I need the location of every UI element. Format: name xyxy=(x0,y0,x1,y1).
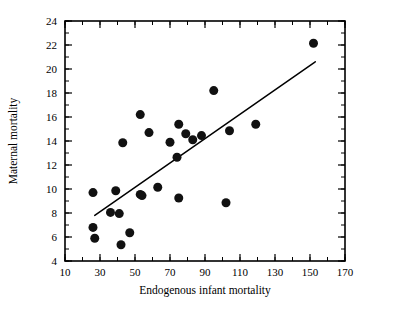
data-point xyxy=(174,120,183,129)
scatter-plot-figure: 1030507090110130150170 46810121416182022… xyxy=(0,0,400,311)
x-tick-label: 70 xyxy=(165,266,177,278)
data-point xyxy=(222,198,231,207)
data-point xyxy=(145,128,154,137)
x-tick-label: 150 xyxy=(302,266,319,278)
x-tick-label: 50 xyxy=(130,266,142,278)
x-tick-label: 110 xyxy=(232,266,249,278)
y-tick-label: 10 xyxy=(46,183,58,195)
figure-background xyxy=(0,0,400,311)
data-point xyxy=(90,234,99,243)
data-point xyxy=(136,110,145,119)
data-point xyxy=(181,129,190,138)
y-tick-label: 12 xyxy=(46,159,57,171)
x-axis-tick-labels: 1030507090110130150170 xyxy=(60,266,354,278)
x-tick-label: 170 xyxy=(337,266,354,278)
y-tick-label: 20 xyxy=(46,63,58,75)
data-point xyxy=(111,186,120,195)
y-tick-label: 14 xyxy=(46,135,58,147)
data-point xyxy=(138,191,147,200)
plot-canvas: 1030507090110130150170 46810121416182022… xyxy=(0,0,400,311)
y-tick-label: 24 xyxy=(46,15,58,27)
data-point xyxy=(125,228,134,237)
y-axis-label: Maternal mortality xyxy=(7,97,20,184)
y-tick-label: 18 xyxy=(46,87,58,99)
y-tick-label: 16 xyxy=(46,111,58,123)
data-point xyxy=(188,135,197,144)
data-point xyxy=(89,223,98,232)
x-tick-label: 90 xyxy=(200,266,212,278)
data-point xyxy=(115,209,124,218)
y-tick-label: 4 xyxy=(52,255,58,267)
data-point xyxy=(209,86,218,95)
data-point xyxy=(117,240,126,249)
data-point xyxy=(251,120,260,129)
data-point xyxy=(166,138,175,147)
data-point xyxy=(173,153,182,162)
data-point xyxy=(309,39,318,48)
data-point xyxy=(89,188,98,197)
data-point xyxy=(197,131,206,140)
x-tick-label: 30 xyxy=(95,266,107,278)
data-point xyxy=(118,138,127,147)
data-point xyxy=(106,208,115,217)
y-tick-label: 8 xyxy=(52,207,58,219)
x-axis-label: Endogenous infant mortality xyxy=(139,284,271,297)
y-tick-label: 6 xyxy=(52,231,58,243)
data-point xyxy=(174,194,183,203)
x-tick-label: 130 xyxy=(267,266,284,278)
data-point xyxy=(153,183,162,192)
y-tick-label: 22 xyxy=(46,39,57,51)
x-tick-label: 10 xyxy=(60,266,72,278)
data-point xyxy=(225,126,234,135)
